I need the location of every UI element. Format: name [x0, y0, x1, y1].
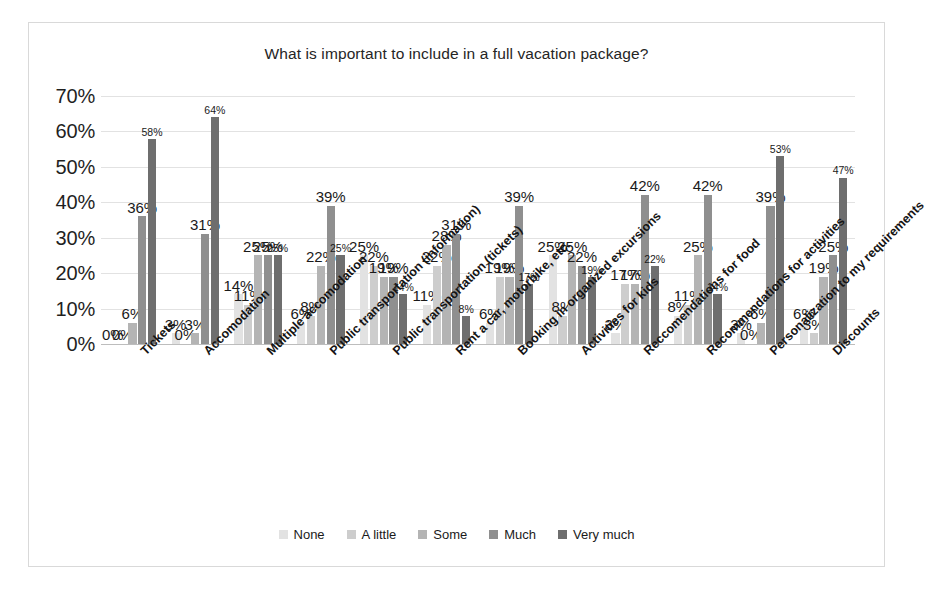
bar-groups: 0%0%6%36%58%3%0%3%31%64%14%11%25%25%25%6…	[101, 96, 855, 344]
bar[interactable]	[128, 323, 136, 344]
chart-container: What is important to include in a full v…	[28, 22, 885, 567]
legend-label: Much	[504, 527, 536, 542]
legend-label: Very much	[573, 527, 634, 542]
bar-value-label: 58%	[141, 127, 162, 139]
bar-item[interactable]: 19%	[389, 96, 397, 344]
bar-item[interactable]: 0%	[109, 96, 117, 344]
bar[interactable]	[611, 333, 619, 344]
y-axis-tick-label: 20%	[56, 262, 95, 285]
bar-item[interactable]: 0%	[181, 96, 189, 344]
bar-item[interactable]: 25%	[336, 96, 344, 344]
bar-value-label: 53%	[770, 144, 791, 156]
bar-value-label: 64%	[204, 105, 225, 117]
bar-item[interactable]: 14%	[399, 96, 407, 344]
legend-swatch-icon	[558, 530, 567, 539]
bar-item[interactable]: 19%	[588, 96, 596, 344]
legend-swatch-icon	[347, 530, 356, 539]
bar-item[interactable]: 22%	[578, 96, 586, 344]
bar[interactable]	[776, 156, 784, 344]
legend-label: Some	[433, 527, 467, 542]
x-axis: TicketsAccomodationMultiple accomodation…	[101, 348, 855, 498]
bar-group: 0%0%6%36%58%	[101, 96, 164, 344]
bar[interactable]	[704, 195, 712, 344]
legend-label: A little	[362, 527, 397, 542]
bar-item[interactable]: 39%	[515, 96, 523, 344]
bar-item[interactable]: 53%	[776, 96, 784, 344]
y-axis-tick-label: 50%	[56, 155, 95, 178]
bar[interactable]	[810, 333, 818, 344]
bar[interactable]	[148, 139, 156, 344]
y-axis-tick-label: 60%	[56, 120, 95, 143]
y-axis-tick-label: 70%	[56, 85, 95, 108]
bar[interactable]	[211, 117, 219, 344]
bar[interactable]	[201, 234, 209, 344]
bar-item[interactable]: 25%	[274, 96, 282, 344]
bar-item[interactable]: 42%	[704, 96, 712, 344]
legend-item[interactable]: Some	[418, 527, 467, 542]
bar-item[interactable]: 25%	[264, 96, 272, 344]
legend: NoneA littleSomeMuchVery much	[29, 527, 884, 542]
bar[interactable]	[839, 178, 847, 345]
bar-item[interactable]: 17%	[525, 96, 533, 344]
legend-swatch-icon	[279, 530, 288, 539]
legend-swatch-icon	[489, 530, 498, 539]
y-axis-tick-label: 40%	[56, 191, 95, 214]
bar-item[interactable]: 64%	[211, 96, 219, 344]
legend-item[interactable]: A little	[347, 527, 397, 542]
bar[interactable]	[327, 206, 335, 344]
bar-item[interactable]: 58%	[148, 96, 156, 344]
bar-value-label: 47%	[833, 165, 854, 177]
bar-value-label: 22%	[644, 254, 665, 266]
chart-title: What is important to include in a full v…	[29, 45, 884, 63]
bar[interactable]	[191, 333, 199, 344]
bar[interactable]	[757, 323, 765, 344]
bar-item[interactable]: 31%	[201, 96, 209, 344]
legend-label: None	[294, 527, 325, 542]
bar-value-label: 25%	[267, 243, 288, 255]
bar-item[interactable]: 14%	[713, 96, 721, 344]
legend-swatch-icon	[418, 530, 427, 539]
y-axis-tick-label: 30%	[56, 226, 95, 249]
bar-item[interactable]: 3%	[172, 96, 180, 344]
bar-value-label: 8%	[459, 304, 474, 316]
bar[interactable]	[766, 206, 774, 344]
y-axis: 70%60%50%40%30%20%10%0%	[37, 96, 95, 344]
y-axis-tick-label: 10%	[56, 297, 95, 320]
bar-item[interactable]: 6%	[128, 96, 136, 344]
bar-item[interactable]: 39%	[327, 96, 335, 344]
bar-item[interactable]: 39%	[766, 96, 774, 344]
legend-item[interactable]: None	[279, 527, 325, 542]
legend-item[interactable]: Much	[489, 527, 536, 542]
bar-group: 3%0%3%31%64%	[164, 96, 227, 344]
plot-area: 0%0%6%36%58%3%0%3%31%64%14%11%25%25%25%6…	[101, 96, 855, 344]
bar[interactable]	[138, 216, 146, 344]
legend-item[interactable]: Very much	[558, 527, 634, 542]
y-axis-tick-label: 0%	[66, 333, 95, 356]
bar-value-label: 25%	[330, 243, 351, 255]
